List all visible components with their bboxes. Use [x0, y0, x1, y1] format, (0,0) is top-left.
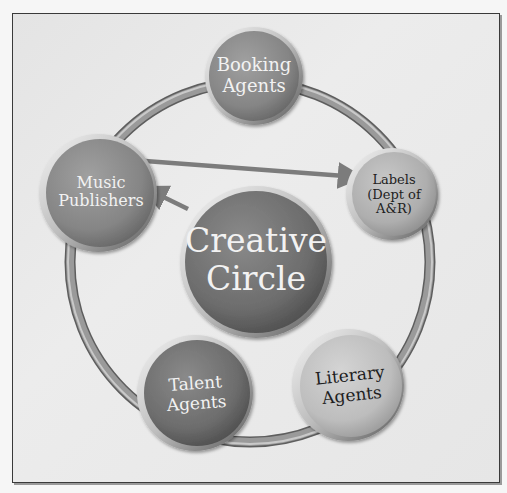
labels-line1: Labels [372, 173, 415, 188]
talent-agents-label: Talent Agents [148, 362, 244, 426]
music-publishers-label: Music Publishers [46, 162, 156, 222]
labels-line2: (Dept of [367, 188, 421, 203]
center-label-line1: Creative [185, 222, 327, 260]
arrow-music-publishers-to-labels [132, 160, 358, 177]
center-label: Creative Circle [186, 205, 326, 315]
labels-label: Labels (Dept of A&R) [358, 162, 430, 228]
labels-line3: A&R) [376, 202, 412, 217]
booking-agents-label: Booking Agents [209, 46, 299, 106]
literary-agents-label: Literary Agents [302, 350, 400, 421]
booking-agents-line1: Booking [217, 55, 292, 76]
center-label-line2: Circle [206, 260, 306, 298]
music-publishers-line1: Music [77, 174, 126, 192]
music-publishers-line2: Publishers [58, 192, 143, 210]
literary-agents-line2: Agents [321, 383, 382, 409]
booking-agents-line2: Agents [222, 76, 285, 97]
talent-agents-line2: Agents [166, 392, 227, 416]
